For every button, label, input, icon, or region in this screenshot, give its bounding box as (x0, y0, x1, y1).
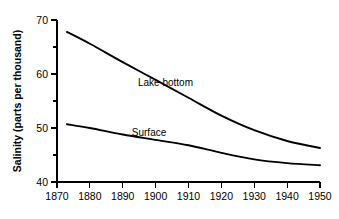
y-tick-label-40: 40 (36, 176, 48, 188)
axes-group (57, 20, 320, 182)
x-tick-label-1880: 1880 (78, 190, 102, 202)
y-axis-ticks: 40506070 (36, 14, 57, 188)
y-axis-title: Salinity (parts per thousand) (11, 30, 23, 172)
salinity-line-chart: Salinity (parts per thousand) 40506070 1… (0, 0, 339, 219)
series-annotations: Lake bottomSurface (132, 77, 193, 138)
curve-surface (67, 124, 320, 165)
x-tick-label-1870: 1870 (45, 190, 69, 202)
series-label-surface: Surface (132, 127, 167, 138)
x-tick-label-1920: 1920 (210, 190, 234, 202)
x-axis-ticks: 187018801890190019101920193019401950 (45, 182, 332, 202)
x-tick-label-1890: 1890 (111, 190, 135, 202)
x-tick-label-1950: 1950 (308, 190, 332, 202)
y-tick-label-70: 70 (36, 14, 48, 26)
x-tick-label-1910: 1910 (177, 190, 201, 202)
y-tick-label-60: 60 (36, 68, 48, 80)
chart-container: Salinity (parts per thousand) 40506070 1… (0, 0, 339, 219)
x-tick-label-1940: 1940 (275, 190, 299, 202)
x-tick-label-1900: 1900 (144, 190, 168, 202)
y-tick-label-50: 50 (36, 122, 48, 134)
series-label-lake-bottom: Lake bottom (138, 77, 193, 88)
data-series-group (67, 32, 320, 165)
x-tick-label-1930: 1930 (243, 190, 267, 202)
